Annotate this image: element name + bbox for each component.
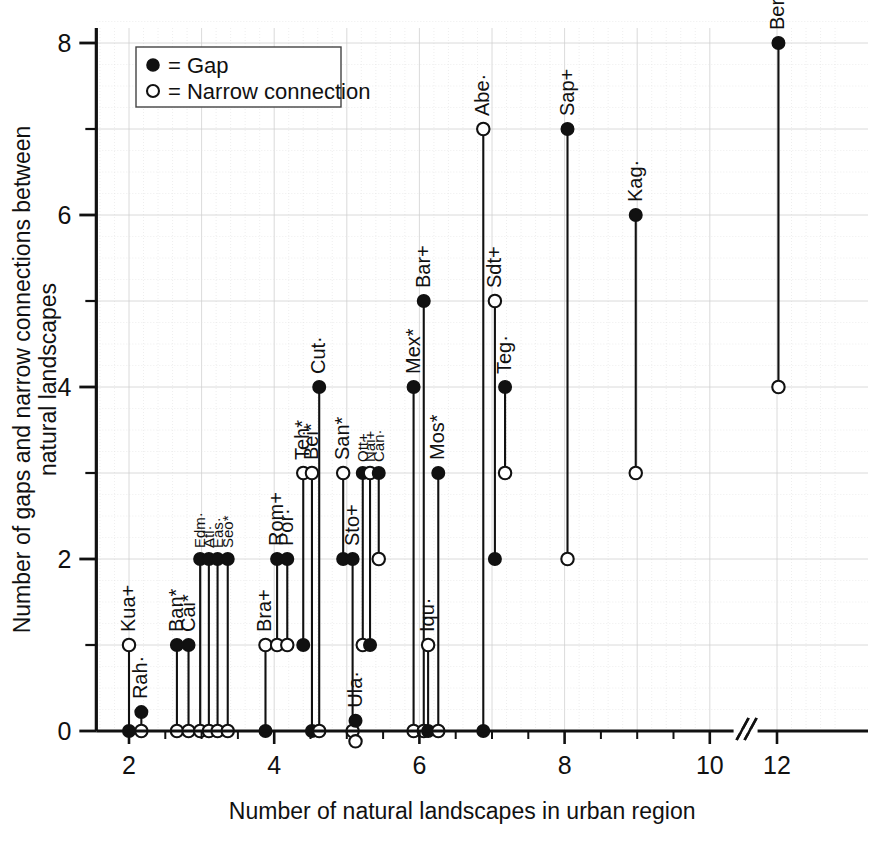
point-label: Mex*	[402, 328, 424, 374]
gap-marker[interactable]	[222, 553, 234, 565]
gap-marker[interactable]	[418, 295, 430, 307]
chart-legend: = Gap= Narrow connection	[136, 47, 370, 107]
point-label: Por·	[275, 508, 297, 546]
x-tick-label: 2	[122, 751, 136, 779]
point-label: Abe·	[471, 74, 493, 116]
narrow-connection-marker[interactable]	[489, 295, 501, 307]
point-label: Mos*	[426, 414, 448, 460]
gap-marker[interactable]	[499, 381, 511, 393]
gap-marker[interactable]	[364, 639, 376, 651]
y-axis-title: natural landscapes	[35, 283, 61, 476]
point-label: Bei*	[300, 423, 322, 460]
narrow-connection-marker[interactable]	[349, 735, 361, 747]
point-label: Kag·	[624, 160, 646, 202]
gap-marker[interactable]	[373, 467, 385, 479]
chart-figure: Kua+Rah·Ban*Cai*Edm·Atl·Eas·Seo*Bra+Rom+…	[0, 0, 885, 842]
narrow-connection-marker[interactable]	[306, 467, 318, 479]
narrow-connection-marker[interactable]	[337, 467, 349, 479]
narrow-connection-marker[interactable]	[477, 123, 489, 135]
gap-marker[interactable]	[630, 209, 642, 221]
point-label: Bar+	[412, 245, 434, 288]
narrow-connection-marker[interactable]	[259, 639, 271, 651]
gap-marker[interactable]	[772, 37, 784, 49]
gap-marker[interactable]	[281, 553, 293, 565]
legend-gap-icon	[147, 59, 159, 71]
legend-label: = Narrow connection	[168, 79, 370, 104]
x-axis-title: Number of natural landscapes in urban re…	[229, 798, 696, 824]
legend-label: = Gap	[168, 53, 229, 78]
point-label: Ula·	[344, 671, 366, 708]
legend-narrow-icon	[147, 85, 159, 97]
point-label: Cai*	[177, 594, 199, 632]
gap-marker[interactable]	[489, 553, 501, 565]
narrow-connection-marker[interactable]	[561, 553, 573, 565]
stem-lines	[129, 43, 778, 741]
point-label: Kua+	[117, 585, 139, 632]
point-label: Rah·	[129, 656, 151, 699]
y-tick-label: 0	[57, 717, 71, 745]
x-tick-label: 8	[558, 751, 572, 779]
narrow-connection-marker[interactable]	[373, 553, 385, 565]
x-tick-label: 4	[267, 751, 281, 779]
y-tick-label: 8	[57, 29, 71, 57]
gap-marker[interactable]	[135, 706, 147, 718]
y-axis-title: Number of gaps and narrow connections be…	[9, 126, 35, 634]
gap-marker[interactable]	[349, 714, 361, 726]
narrow-connection-marker[interactable]	[772, 381, 784, 393]
x-tick-label: 12	[763, 751, 791, 779]
narrow-connection-marker[interactable]	[281, 639, 293, 651]
point-label: Iqu·	[416, 598, 438, 632]
y-tick-label: 2	[57, 545, 71, 573]
gap-marker[interactable]	[346, 553, 358, 565]
y-tick-label: 6	[57, 201, 71, 229]
gap-marker[interactable]	[432, 467, 444, 479]
x-tick-label: 10	[696, 751, 724, 779]
point-label: Sto+	[341, 504, 363, 546]
x-tick-label: 6	[412, 751, 426, 779]
scatter-chart-svg: Kua+Rah·Ban*Cai*Edm·Atl·Eas·Seo*Bra+Rom+…	[0, 0, 885, 842]
point-label: Teg·	[493, 335, 515, 374]
data-markers	[123, 37, 785, 748]
point-label: San*	[331, 416, 353, 460]
gap-marker[interactable]	[561, 123, 573, 135]
point-label: Sap+	[556, 69, 578, 116]
point-label: Seo*	[219, 515, 236, 548]
point-label: Bra+	[253, 589, 275, 632]
point-label: Sdt+	[483, 246, 505, 288]
narrow-connection-marker[interactable]	[630, 467, 642, 479]
gap-marker[interactable]	[297, 639, 309, 651]
gap-marker[interactable]	[182, 639, 194, 651]
point-label: Cut·	[307, 336, 329, 374]
narrow-connection-marker[interactable]	[123, 639, 135, 651]
point-label: Can·	[370, 429, 387, 462]
narrow-connection-marker[interactable]	[499, 467, 511, 479]
gap-marker[interactable]	[407, 381, 419, 393]
gap-marker[interactable]	[171, 639, 183, 651]
gap-marker[interactable]	[313, 381, 325, 393]
narrow-connection-marker[interactable]	[422, 639, 434, 651]
point-label: Ber+	[766, 0, 788, 30]
